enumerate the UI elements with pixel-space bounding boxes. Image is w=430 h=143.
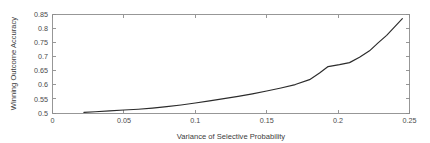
y-tick-label: 0.6 — [38, 80, 48, 89]
chart-figure: 00.050.10.150.20.25 0.50.550.60.650.70.7… — [0, 0, 430, 143]
figure-background — [0, 0, 430, 143]
line-chart: 00.050.10.150.20.25 0.50.550.60.650.70.7… — [0, 0, 430, 143]
y-tick-label: 0.8 — [38, 24, 48, 33]
x-axis-title: Variance of Selective Probability — [177, 132, 286, 141]
x-tick-label: 0.15 — [260, 116, 274, 125]
x-tick-label: 0 — [51, 116, 55, 125]
y-axis-title: Winning Outcome Accuracy — [9, 17, 18, 110]
y-tick-label: 0.85 — [34, 10, 48, 19]
x-tick-label: 0.25 — [403, 116, 417, 125]
y-tick-label: 0.5 — [38, 109, 48, 118]
x-tick-label: 0.1 — [190, 116, 200, 125]
x-tick-label: 0.05 — [117, 116, 131, 125]
y-tick-label: 0.75 — [34, 38, 48, 47]
y-tick-label: 0.65 — [34, 66, 48, 75]
y-tick-label: 0.55 — [34, 95, 48, 104]
x-tick-label: 0.2 — [333, 116, 343, 125]
y-tick-label: 0.7 — [38, 52, 48, 61]
